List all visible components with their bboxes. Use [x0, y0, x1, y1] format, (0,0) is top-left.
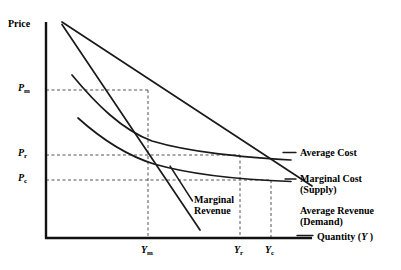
- curve-label-average-cost: Average Cost: [300, 147, 357, 158]
- curve-label-marginal-cost-line2: (Supply): [300, 184, 362, 195]
- price-tick-pr-sub: r: [24, 152, 27, 160]
- curves: [62, 22, 312, 230]
- quantity-tick-ym-sub: m: [147, 249, 153, 257]
- price-tick-pm: Pm: [18, 82, 30, 94]
- marginal-cost-curve: [78, 118, 291, 182]
- curve-label-marginal-revenue-line1: Marginal: [194, 194, 234, 205]
- quantity-tick-ym: Ym: [141, 244, 153, 256]
- axes: [45, 22, 312, 239]
- quantity-tick-yr: Yr: [234, 244, 243, 256]
- plot-canvas: [0, 0, 401, 270]
- economics-diagram: Price Quantity (Y ) Pm Pr Pc Ym Yr Yc Av…: [0, 0, 401, 270]
- quantity-tick-yc: Yc: [265, 244, 274, 256]
- x-axis-title-main: Quantity (: [317, 231, 361, 242]
- guide-lines: [46, 90, 271, 238]
- curve-label-marginal-revenue-line2: Revenue: [194, 205, 234, 216]
- price-tick-pr: Pr: [18, 147, 27, 159]
- curve-label-marginal-revenue: Marginal Revenue: [194, 194, 234, 216]
- quantity-tick-yc-sub: c: [271, 249, 274, 257]
- x-axis-title-end: ): [367, 231, 373, 242]
- x-axis-title: Quantity (Y ): [317, 231, 373, 242]
- curve-label-average-cost-line1: Average Cost: [300, 147, 357, 158]
- price-tick-pc-sub: c: [24, 177, 27, 185]
- curve-label-average-revenue: Average Revenue (Demand): [300, 205, 374, 227]
- quantity-tick-yr-sub: r: [240, 249, 243, 257]
- curve-label-average-revenue-line1: Average Revenue: [300, 205, 374, 216]
- price-tick-pc: Pc: [18, 172, 27, 184]
- leader-lines: [170, 153, 313, 236]
- curve-label-average-revenue-line2: (Demand): [300, 216, 374, 227]
- curve-label-marginal-cost-line1: Marginal Cost: [300, 173, 362, 184]
- marginal-revenue-curve: [62, 25, 200, 231]
- y-axis-title: Price: [8, 18, 30, 29]
- curve-label-marginal-cost: Marginal Cost (Supply): [300, 173, 362, 195]
- average-revenue-curve: [62, 22, 312, 186]
- price-tick-pm-sub: m: [24, 87, 30, 95]
